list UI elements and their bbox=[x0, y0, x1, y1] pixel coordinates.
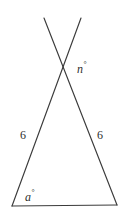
apex-angle-degree-symbol: ° bbox=[84, 60, 87, 69]
right-side-length-label: 6 bbox=[97, 129, 103, 141]
left-side-length-label: 6 bbox=[20, 129, 26, 141]
geometry-figure: n° 6 6 a° bbox=[0, 0, 130, 213]
base-angle-degree-symbol: ° bbox=[32, 188, 35, 197]
base-angle-variable: a bbox=[25, 190, 31, 204]
line-base bbox=[12, 205, 117, 206]
geometry-diagram bbox=[0, 0, 130, 213]
line-right-ray-to-base-left bbox=[12, 18, 81, 206]
apex-angle-label: n° bbox=[77, 60, 87, 76]
base-angle-label: a° bbox=[25, 188, 35, 204]
line-left-ray-to-base-right bbox=[44, 18, 117, 205]
apex-angle-variable: n bbox=[77, 62, 83, 76]
